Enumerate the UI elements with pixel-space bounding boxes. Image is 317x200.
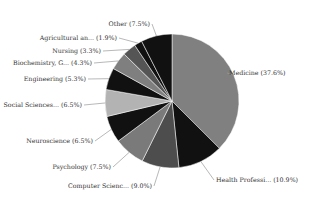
slice-label: Biochemistry, G... (4.3%) <box>13 59 92 67</box>
leader-line <box>95 129 111 141</box>
slice-label: Agricultural an... (1.9%) <box>39 34 117 42</box>
pie-chart: Medicine (37.6%)Health Professi... (10.9… <box>0 0 317 200</box>
leader-line <box>103 49 129 51</box>
slice-label: Nursing (3.3%) <box>52 47 101 55</box>
leader-line <box>94 61 118 63</box>
leader-line <box>154 167 160 186</box>
leader-line <box>84 103 105 105</box>
slice-label: Social Sciences... (6.5%) <box>4 101 82 108</box>
leader-line <box>119 38 138 43</box>
leader-line <box>113 152 129 167</box>
leader-line <box>201 161 214 180</box>
leader-line <box>152 24 156 36</box>
pie-slices <box>105 34 239 168</box>
slice-label: Other (7.5%) <box>109 20 150 27</box>
slice-label: Engineering (5.3%) <box>24 75 86 83</box>
slice-label: Psychology (7.5%) <box>52 163 111 171</box>
slice-label: Computer Scienc... (9.0%) <box>68 182 152 190</box>
slice-label: Health Professi... (10.9%) <box>216 176 298 183</box>
slice-label: Neuroscience (6.5%) <box>26 137 93 144</box>
slice-label: Medicine (37.6%) <box>229 69 285 76</box>
